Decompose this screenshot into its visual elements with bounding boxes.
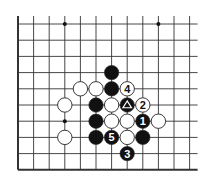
white-stone-move-4: 4: [120, 82, 134, 96]
white-stone: [89, 82, 103, 96]
black-stone: [136, 130, 150, 144]
stone-icon: [89, 130, 103, 144]
black-stone-move-5: 5: [104, 130, 118, 144]
white-stone: [120, 130, 134, 144]
white-stone: [151, 114, 165, 128]
white-stone: [104, 114, 118, 128]
white-stone: [58, 130, 72, 144]
go-board-diagram: 42153: [0, 0, 211, 184]
stone-icon: [104, 98, 118, 112]
stone-icon: [151, 114, 165, 128]
move-number-label: 3: [124, 148, 130, 160]
black-stone: [89, 114, 103, 128]
stone-icon: [104, 114, 118, 128]
move-number-label: 5: [109, 131, 115, 143]
stone-icon: [73, 82, 87, 96]
star-point-icon: [63, 119, 67, 123]
white-stone: [120, 114, 134, 128]
stone-icon: [58, 130, 72, 144]
white-stone: [73, 82, 87, 96]
black-stone-move-3: 3: [120, 146, 134, 160]
black-stone: [89, 130, 103, 144]
black-stone-move-1: 1: [136, 114, 150, 128]
move-number-label: 1: [140, 115, 146, 127]
stone-icon: [120, 114, 134, 128]
white-stone: [104, 98, 118, 112]
stone-icon: [104, 65, 118, 79]
move-number-label: 2: [140, 99, 146, 111]
white-stone-move-2: 2: [136, 98, 150, 112]
stone-icon: [89, 114, 103, 128]
black-stone: [89, 98, 103, 112]
white-stone: [58, 98, 72, 112]
stone-icon: [104, 82, 118, 96]
stone-icon: [58, 98, 72, 112]
stone-icon: [136, 130, 150, 144]
star-point-icon: [63, 22, 67, 26]
stone-icon: [89, 98, 103, 112]
black-stone: [104, 82, 118, 96]
black-stone: [104, 65, 118, 79]
black-stone-marked: [120, 98, 134, 112]
stone-icon: [120, 130, 134, 144]
move-number-label: 4: [124, 83, 131, 95]
star-point-icon: [156, 22, 160, 26]
stone-icon: [89, 82, 103, 96]
